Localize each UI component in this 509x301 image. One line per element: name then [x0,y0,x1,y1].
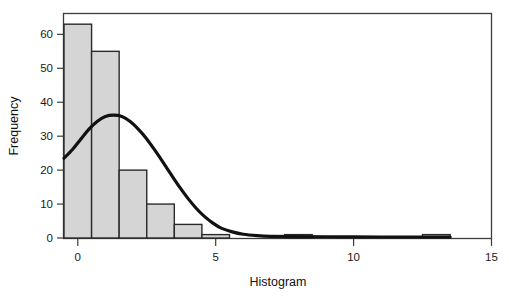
x-tick-label: 5 [212,251,218,263]
y-tick-label: 40 [40,96,53,108]
y-tick-label: 0 [47,232,53,244]
histogram-bar [147,204,175,238]
histogram-bar [119,170,147,238]
histogram-chart: 0102030405060 051015 Histogram Frequency [0,0,509,301]
x-tick-label: 0 [75,251,81,263]
y-axis-title: Frequency [7,96,21,156]
x-tick-label: 10 [347,251,360,263]
y-tick-label: 30 [40,130,53,142]
histogram-bar [202,235,230,238]
histogram-bar [92,51,120,238]
y-tick-label: 60 [40,28,53,40]
x-axis-title: Histogram [250,275,307,289]
y-tick-label: 50 [40,62,53,74]
x-tick-label: 15 [485,251,498,263]
chart-canvas: 0102030405060 051015 Histogram Frequency [0,0,509,301]
y-tick-label: 10 [40,198,53,210]
histogram-bar [174,224,202,238]
y-tick-label: 20 [40,164,53,176]
